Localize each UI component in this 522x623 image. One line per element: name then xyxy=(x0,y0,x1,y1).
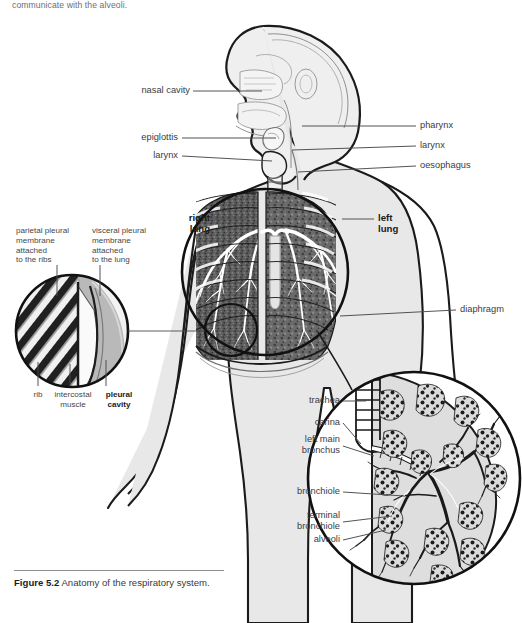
label-epiglottis: epiglottis xyxy=(70,132,178,143)
caption-rule xyxy=(14,570,224,571)
label-larynx-right: larynx xyxy=(420,140,516,151)
caption-text: Anatomy of the respiratory system. xyxy=(61,577,209,588)
label-left-lung: left lung xyxy=(378,212,438,235)
label-intercostal-muscle: intercostal muscle xyxy=(48,390,98,410)
label-larynx-left: larynx xyxy=(70,150,178,161)
label-pleural-cavity: pleural cavity xyxy=(98,390,140,410)
label-left-main-bronchus: left main bronchus xyxy=(268,434,340,457)
label-oesophagus: oesophagus xyxy=(420,160,516,171)
label-terminal-bronchiole: terminal bronchiole xyxy=(268,510,340,533)
label-bronchiole: bronchiole xyxy=(268,486,340,497)
pleural-inset xyxy=(16,275,128,390)
label-alveoli: alveoli xyxy=(268,534,340,545)
label-carina: carina xyxy=(278,417,340,428)
label-parietal-pleural-membrane: parietal pleural membrane attached to th… xyxy=(16,226,90,265)
label-trachea: trachea xyxy=(278,395,340,406)
caption-number: Figure 5.2 xyxy=(14,577,59,588)
label-nasal-cavity: nasal cavity xyxy=(70,85,190,96)
figure-caption: Figure 5.2 Anatomy of the respiratory sy… xyxy=(14,576,226,590)
label-pharynx: pharynx xyxy=(420,120,516,131)
label-visceral-pleural-membrane: visceral pleural membrane attached to th… xyxy=(92,226,168,265)
label-diaphragm: diaphragm xyxy=(460,304,522,315)
